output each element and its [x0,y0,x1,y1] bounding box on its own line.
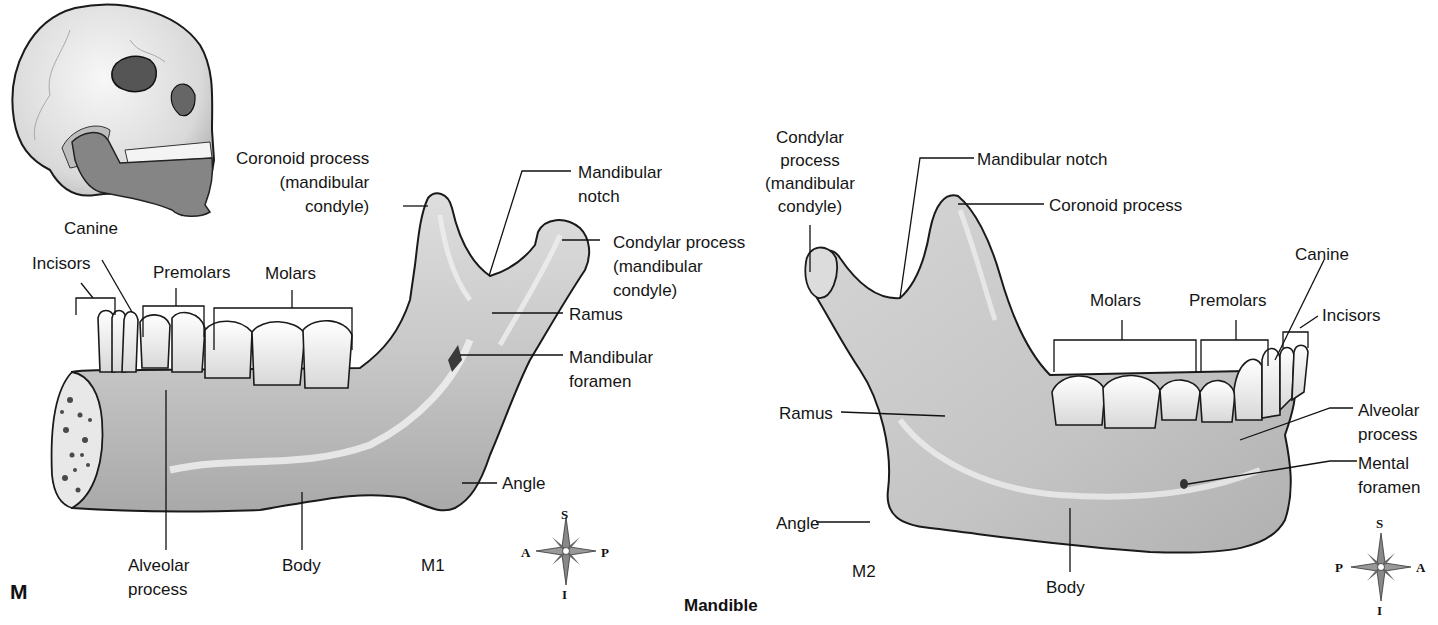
compass-rose-m1-icon [536,517,596,585]
label-canine-m2: Canine [1295,245,1349,264]
label-body-m1: Body [282,556,321,575]
label-body-m2: Body [1046,578,1085,597]
label-condylar-process-m1: Condylar process (mandibular condyle) [613,233,745,300]
compass-m2-inferior: I [1377,603,1382,619]
label-mandibular-foramen-m1: Mandibular foramen [569,348,653,391]
label-molars-m2: Molars [1090,291,1141,310]
label-coronoid-process-m2: Coronoid process [1049,196,1182,215]
label-mandibular-notch-m1: Mandibular notch [578,163,662,206]
label-ramus-m2: Ramus [779,404,833,423]
label-angle-m2: Angle [776,514,819,533]
mandible-lateral-view-m1 [52,193,590,511]
label-ramus-m1: Ramus [569,305,623,324]
compass-rose-m2-icon [1351,533,1411,601]
label-angle-m1: Angle [502,474,545,493]
label-incisors-m2: Incisors [1322,306,1381,325]
skull-thumbnail-icon [12,5,214,217]
label-condylar-process-m2: Condylar process (mandibular condyle) [764,128,856,216]
compass-m2-anterior: A [1416,560,1425,576]
mandible-lateral-view-m2 [805,195,1308,552]
compass-m1-superior: S [561,507,568,523]
figure-id-m2: M2 [852,562,876,582]
compass-m2-superior: S [1376,516,1383,532]
compass-m1-posterior: P [601,545,609,561]
label-incisors-m1: Incisors [32,254,91,273]
label-mental-foramen-m2: Mental foramen [1358,454,1420,497]
label-alveolar-process-m2: Alveolar process [1358,401,1419,444]
figure-id-m1: M1 [421,556,445,576]
label-canine-m1: Canine [64,219,118,238]
panel-letter: M [10,580,28,604]
label-alveolar-process-m1: Alveolar process [128,556,189,599]
label-mandibular-notch-m2: Mandibular notch [977,150,1107,169]
mandible-illustration [0,0,1438,625]
label-premolars-m1: Premolars [153,263,230,282]
label-coronoid-process-m1: Coronoid process (mandibular condyle) [236,149,369,216]
label-molars-m1: Molars [265,264,316,283]
compass-m1-inferior: I [562,587,567,603]
label-premolars-m2: Premolars [1189,291,1266,310]
compass-m1-anterior: A [521,545,530,561]
figure-caption: Mandible [684,596,758,616]
compass-m2-posterior: P [1335,560,1343,576]
